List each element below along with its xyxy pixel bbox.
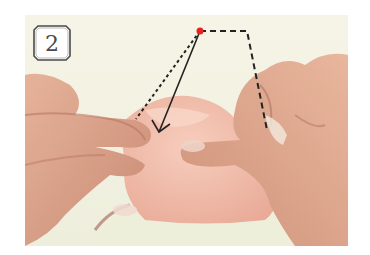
- fold-point-marker: [197, 28, 204, 35]
- step-number: 2: [33, 25, 71, 61]
- right-thumbnail: [181, 140, 205, 152]
- photo-scene: [25, 15, 348, 246]
- step-badge: 2: [33, 25, 71, 61]
- left-thumbnail: [113, 204, 137, 216]
- origami-step-photo: 2: [25, 15, 348, 246]
